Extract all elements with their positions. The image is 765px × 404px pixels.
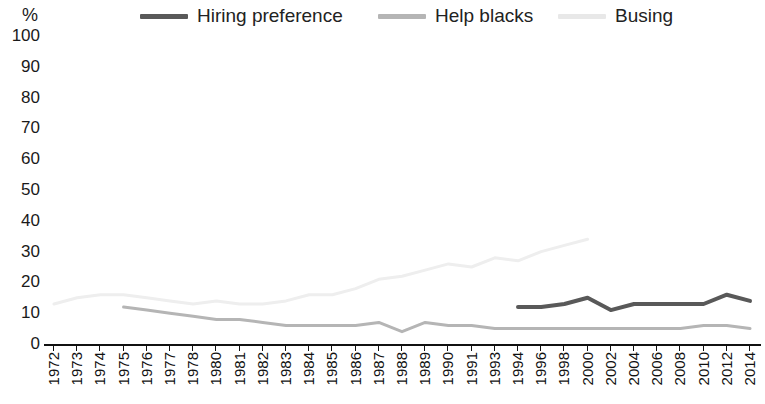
y-tick-30: 30 (21, 242, 40, 262)
x-tick-label: 1983 (278, 352, 294, 385)
tick-mark (169, 346, 170, 351)
x-tick-1996: 1996 (533, 346, 549, 404)
x-tick-label: 1988 (394, 352, 410, 385)
tick-mark (53, 346, 54, 351)
y-tick-60: 60 (21, 149, 40, 169)
x-tick-2008: 2008 (672, 346, 688, 404)
tick-mark (262, 346, 263, 351)
tick-mark (401, 346, 402, 351)
x-tick-1998: 1998 (556, 346, 572, 404)
x-tick-label: 2008 (672, 352, 688, 385)
tick-mark (610, 346, 611, 351)
tick-mark (146, 346, 147, 351)
tick-mark (99, 346, 100, 351)
tick-mark (656, 346, 657, 351)
y-tick-100: 100 (12, 26, 40, 46)
x-tick-2010: 2010 (696, 346, 712, 404)
tick-mark (424, 346, 425, 351)
y-tick-50: 50 (21, 180, 40, 200)
tick-mark (285, 346, 286, 351)
tick-mark (471, 346, 472, 351)
x-tick-label: 1986 (348, 352, 364, 385)
x-tick-label: 1977 (162, 352, 178, 385)
series-line-hiring-preference (518, 295, 750, 310)
legend-item-help-blacks[interactable]: Help blacks (378, 3, 533, 29)
x-tick-label: 2004 (626, 352, 642, 385)
y-tick-10: 10 (21, 303, 40, 323)
x-tick-label: 1994 (510, 352, 526, 385)
y-tick-90: 90 (21, 57, 40, 77)
x-tick-label: 1998 (556, 352, 572, 385)
chart-legend: % Hiring preference Help blacks Busing (0, 0, 765, 34)
x-tick-1987: 1987 (371, 346, 387, 404)
x-tick-1982: 1982 (255, 346, 271, 404)
x-tick-label: 1996 (533, 352, 549, 385)
x-tick-1974: 1974 (92, 346, 108, 404)
tick-mark (331, 346, 332, 351)
x-tick-2006: 2006 (649, 346, 665, 404)
y-tick-70: 70 (21, 118, 40, 138)
tick-mark (679, 346, 680, 351)
x-tick-1988: 1988 (394, 346, 410, 404)
x-tick-2014: 2014 (742, 346, 758, 404)
x-tick-2004: 2004 (626, 346, 642, 404)
x-tick-2002: 2002 (603, 346, 619, 404)
tick-mark (192, 346, 193, 351)
x-tick-1973: 1973 (69, 346, 85, 404)
x-tick-label: 1985 (324, 352, 340, 385)
x-tick-1990: 1990 (440, 346, 456, 404)
tick-mark (563, 346, 564, 351)
series-line-help-blacks (124, 307, 750, 332)
x-tick-label: 2010 (696, 352, 712, 385)
x-tick-1983: 1983 (278, 346, 294, 404)
legend-label-help-blacks: Help blacks (435, 4, 533, 28)
y-axis: 1009080706050403020100 (0, 0, 46, 404)
x-tick-label: 2014 (742, 352, 758, 385)
tick-mark (749, 346, 750, 351)
tick-mark (355, 346, 356, 351)
x-tick-label: 1975 (116, 352, 132, 385)
x-tick-label: 2006 (649, 352, 665, 385)
y-tick-0: 0 (31, 334, 40, 354)
legend-swatch-hiring-preference (140, 14, 188, 19)
x-tick-1985: 1985 (324, 346, 340, 404)
tick-mark (494, 346, 495, 351)
tick-mark (123, 346, 124, 351)
x-tick-1986: 1986 (348, 346, 364, 404)
tick-mark (517, 346, 518, 351)
x-tick-label: 1974 (92, 352, 108, 385)
x-tick-label: 1980 (208, 352, 224, 385)
x-tick-1972: 1972 (46, 346, 62, 404)
x-tick-1991: 1991 (464, 346, 480, 404)
x-tick-2000: 2000 (580, 346, 596, 404)
tick-mark (633, 346, 634, 351)
x-tick-label: 1981 (232, 352, 248, 385)
tick-mark (587, 346, 588, 351)
x-axis: 1972197319741975197619771978198019811982… (44, 346, 765, 404)
x-tick-label: 1976 (139, 352, 155, 385)
x-tick-2012: 2012 (719, 346, 735, 404)
x-tick-label: 2002 (603, 352, 619, 385)
x-tick-label: 2000 (580, 352, 596, 385)
x-tick-label: 1990 (440, 352, 456, 385)
series-lines (44, 36, 759, 344)
legend-item-hiring-preference[interactable]: Hiring preference (140, 3, 343, 29)
x-tick-label: 1991 (464, 352, 480, 385)
x-tick-label: 1989 (417, 352, 433, 385)
x-tick-1976: 1976 (139, 346, 155, 404)
legend-swatch-busing (558, 14, 606, 19)
x-tick-label: 1987 (371, 352, 387, 385)
tick-mark (378, 346, 379, 351)
tick-mark (540, 346, 541, 351)
tick-mark (703, 346, 704, 351)
x-tick-1989: 1989 (417, 346, 433, 404)
x-tick-1978: 1978 (185, 346, 201, 404)
x-tick-1981: 1981 (232, 346, 248, 404)
x-tick-1984: 1984 (301, 346, 317, 404)
tick-mark (726, 346, 727, 351)
legend-item-busing[interactable]: Busing (558, 3, 673, 29)
x-tick-label: 1982 (255, 352, 271, 385)
x-tick-label: 2012 (719, 352, 735, 385)
x-tick-label: 1984 (301, 352, 317, 385)
x-tick-label: 1978 (185, 352, 201, 385)
